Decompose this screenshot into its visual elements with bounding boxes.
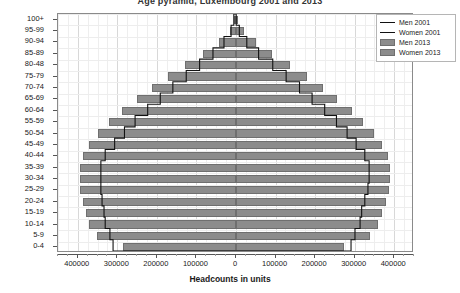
y-axis-tick-label: 10-14: [25, 220, 44, 228]
y-axis-tick-label: 5-9: [33, 231, 44, 239]
x-axis-tick: [77, 254, 78, 258]
y-axis-tick-label: 95-99: [25, 26, 44, 34]
x-axis-tick-minor: [225, 254, 226, 256]
x-axis-tick-minor: [324, 254, 325, 256]
x-axis-tick-minor: [166, 254, 167, 256]
x-axis-tick-minor: [146, 254, 147, 256]
x-axis-tick-minor: [97, 254, 98, 256]
x-axis-tick-label: 100000: [262, 259, 287, 268]
x-axis-tick-label: 400000: [381, 259, 406, 268]
x-axis-tick-minor: [413, 254, 414, 256]
y-axis-tick-label: 90-94: [25, 37, 44, 45]
y-axis-tick-label: 0-4: [33, 242, 44, 250]
x-axis-tick-minor: [126, 254, 127, 256]
x-axis-title: Headcounts in units: [0, 274, 460, 284]
x-axis-tick-minor: [57, 254, 58, 256]
plot-area: [57, 13, 413, 252]
x-axis-tick: [195, 254, 196, 258]
legend-item-label: Women 2001: [399, 29, 441, 37]
x-axis-tick-label: 300000: [104, 259, 129, 268]
outline-2001-overlay: [58, 14, 412, 251]
legend-swatch-icon: [380, 49, 395, 56]
legend-swatch-icon: [380, 39, 395, 46]
x-axis-tick-minor: [205, 254, 206, 256]
x-axis-tick-label: 200000: [302, 259, 327, 268]
x-axis-tick-minor: [403, 254, 404, 256]
x-axis-tick-minor: [255, 254, 256, 256]
y-axis-tick-label: 20-24: [25, 197, 44, 205]
legend-item-label: Men 2013: [399, 39, 430, 47]
x-axis-tick-label: 400000: [64, 259, 89, 268]
x-axis-tick-minor: [136, 254, 137, 256]
x-axis-tick: [393, 254, 394, 258]
y-axis-tick-label: 30-34: [25, 174, 44, 182]
y-axis-tick-label: 40-44: [25, 151, 44, 159]
y-axis-tick-label: 60-64: [25, 106, 44, 114]
y-axis-tick-label: 85-89: [25, 49, 44, 57]
x-axis-tick-minor: [304, 254, 305, 256]
outline-men-2001: [101, 14, 235, 251]
x-axis-tick: [235, 254, 236, 258]
y-axis-tick-label: 65-69: [25, 94, 44, 102]
x-axis-tick-minor: [334, 254, 335, 256]
x-axis-tick: [354, 254, 355, 258]
population-pyramid-chart: Age pyramid, Luxembourg 2001 and 2013 0-…: [0, 0, 460, 293]
x-axis-tick-minor: [294, 254, 295, 256]
y-axis-tick-label: 55-59: [25, 117, 44, 125]
x-axis-tick: [275, 254, 276, 258]
y-axis-tick-label: 35-39: [25, 163, 44, 171]
y-axis-tick-label: 70-74: [25, 83, 44, 91]
x-axis-tick: [156, 254, 157, 258]
x-axis-tick-minor: [373, 254, 374, 256]
chart-title: Age pyramid, Luxembourg 2001 and 2013: [0, 0, 460, 6]
legend-item-label: Men 2001: [399, 19, 430, 27]
x-axis-tick-minor: [364, 254, 365, 256]
y-axis-tick-label: 15-19: [25, 208, 44, 216]
x-axis-tick-label: 0: [233, 259, 237, 268]
y-axis-tick-label: 75-79: [25, 72, 44, 80]
x-axis-tick-minor: [215, 254, 216, 256]
x-axis-tick-label: 300000: [341, 259, 366, 268]
y-axis-tick-label: 50-54: [25, 129, 44, 137]
x-axis-tick-minor: [383, 254, 384, 256]
legend-item: Men 2013: [380, 38, 452, 47]
x-axis-tick-minor: [265, 254, 266, 256]
x-axis-tick: [314, 254, 315, 258]
y-axis-tick-label: 80-48: [25, 60, 44, 68]
legend-item: Women 2001: [380, 28, 452, 37]
x-axis-tick-minor: [284, 254, 285, 256]
y-axis-tick-label: 100+: [27, 15, 44, 23]
outline-women-2001: [235, 14, 369, 251]
y-axis-tick-label: 45-49: [25, 140, 44, 148]
legend-item: Women 2013: [380, 48, 452, 57]
x-axis-tick-label: 200000: [143, 259, 168, 268]
legend-line-icon: [380, 19, 395, 26]
y-axis-tick-label: 25-29: [25, 185, 44, 193]
y-axis-labels: 0-45-910-1415-1920-2425-2930-3435-3940-4…: [0, 13, 52, 252]
legend-item: Men 2001: [380, 18, 452, 27]
legend-item-label: Women 2013: [399, 49, 441, 57]
x-axis-tick: [116, 254, 117, 258]
x-axis-tick-minor: [106, 254, 107, 256]
chart-legend: Men 2001Women 2001Men 2013Women 2013: [376, 14, 456, 62]
x-axis-tick-minor: [186, 254, 187, 256]
x-axis-tick-minor: [176, 254, 177, 256]
x-axis-tick-minor: [344, 254, 345, 256]
legend-line-icon: [380, 29, 395, 36]
x-axis-tick-minor: [245, 254, 246, 256]
x-axis-tick-minor: [87, 254, 88, 256]
x-axis-tick-minor: [67, 254, 68, 256]
x-axis-tick-label: 100000: [183, 259, 208, 268]
